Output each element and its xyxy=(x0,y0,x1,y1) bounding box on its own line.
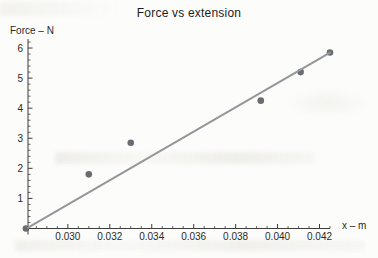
data-point xyxy=(86,171,93,178)
x-tick-label: 0.034 xyxy=(139,231,164,242)
chart-canvas: 0.0300.0320.0340.0360.0380.0400.04212345… xyxy=(0,0,378,258)
y-tick-label: 6 xyxy=(17,43,23,54)
x-tick-label: 0.038 xyxy=(223,231,248,242)
y-tick-label: 1 xyxy=(17,193,23,204)
x-tick-label: 0.042 xyxy=(307,231,332,242)
y-tick-label: 5 xyxy=(17,73,23,84)
x-tick-label: 0.032 xyxy=(97,231,122,242)
x-axis-label: x – m xyxy=(342,220,366,231)
y-axis-label: Force – N xyxy=(10,25,54,36)
data-point xyxy=(127,139,134,146)
y-tick-label: 3 xyxy=(17,133,23,144)
best-fit-line xyxy=(28,53,330,228)
x-tick-label: 0.030 xyxy=(55,231,80,242)
x-tick-label: 0.036 xyxy=(181,231,206,242)
data-point xyxy=(257,97,264,104)
x-tick-label: 0.040 xyxy=(265,231,290,242)
plot-svg: 0.0300.0320.0340.0360.0380.0400.04212345… xyxy=(0,0,378,258)
y-tick-label: 2 xyxy=(17,163,23,174)
chart-title: Force vs extension xyxy=(0,6,378,20)
y-tick-label: 4 xyxy=(17,103,23,114)
